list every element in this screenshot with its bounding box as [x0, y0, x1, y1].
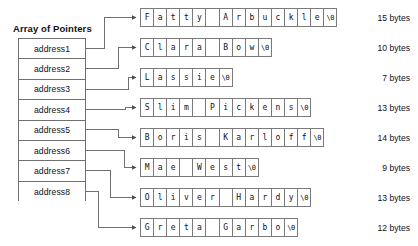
string-row: Clara Bow\0 [140, 38, 272, 57]
string-char-cell: a [232, 128, 246, 147]
string-char-cell: e [310, 8, 324, 27]
string-char-cell: \0 [297, 188, 311, 207]
string-char-cell: t [232, 158, 246, 177]
string-char-cell: m [179, 98, 193, 117]
string-char-cell: W [192, 158, 206, 177]
string-char-cell: a [166, 38, 180, 57]
byte-size-label: 15 bytes [350, 13, 410, 23]
string-char-cell: n [271, 98, 285, 117]
string-char-cell: M [140, 158, 154, 177]
string-char-cell: d [271, 188, 285, 207]
string-char-cell [179, 158, 193, 177]
byte-size-label: 12 bytes [350, 223, 410, 233]
string-char-cell [205, 38, 219, 57]
string-char-cell: \0 [219, 68, 233, 87]
pointer-array-cell: address2 [19, 59, 85, 79]
string-char-cell: B [140, 128, 154, 147]
string-char-cell: s [166, 68, 180, 87]
string-char-cell: k [245, 98, 259, 117]
string-char-cell: o [271, 218, 285, 237]
string-char-cell: i [179, 128, 193, 147]
string-char-cell: s [284, 98, 298, 117]
pointer-array-cell: address7 [19, 161, 85, 181]
byte-size-label: 10 bytes [350, 43, 410, 53]
string-char-cell [192, 98, 206, 117]
string-char-cell: a [153, 8, 167, 27]
string-char-cell: K [219, 128, 233, 147]
string-char-cell: S [140, 98, 154, 117]
string-char-cell: e [192, 188, 206, 207]
byte-size-label: 13 bytes [350, 193, 410, 203]
string-char-cell: a [245, 188, 259, 207]
string-char-cell: t [179, 8, 193, 27]
string-row: Lassie\0 [140, 68, 233, 87]
string-char-cell: o [271, 128, 285, 147]
string-row: Oliver Hardy\0 [140, 188, 311, 207]
string-char-cell: i [166, 98, 180, 117]
byte-size-label: 13 bytes [350, 103, 410, 113]
string-char-cell: r [153, 218, 167, 237]
string-char-cell: l [258, 128, 272, 147]
array-of-pointers-diagram: Array of Pointers address1address2addres… [0, 0, 418, 246]
string-char-cell: t [166, 8, 180, 27]
pointer-array-cell: address5 [19, 121, 85, 141]
string-char-cell: G [219, 218, 233, 237]
string-char-cell: r [166, 128, 180, 147]
string-char-cell: w [245, 38, 259, 57]
string-char-cell: v [179, 188, 193, 207]
string-char-cell: l [153, 98, 167, 117]
string-char-cell [205, 128, 219, 147]
string-row: Greta Garbo\0 [140, 218, 298, 237]
string-char-cell: s [192, 128, 206, 147]
string-row: Boris Karloff\0 [140, 128, 324, 147]
string-char-cell: \0 [310, 128, 324, 147]
string-row: Fatty Arbuckle\0 [140, 8, 337, 27]
string-char-cell: f [297, 128, 311, 147]
string-char-cell: s [219, 158, 233, 177]
byte-size-label: 7 bytes [350, 73, 410, 83]
string-char-cell: O [140, 188, 154, 207]
string-char-cell [205, 218, 219, 237]
string-char-cell: k [284, 8, 298, 27]
string-char-cell: \0 [284, 218, 298, 237]
string-char-cell: t [179, 218, 193, 237]
string-char-cell: i [192, 68, 206, 87]
string-char-cell [219, 188, 233, 207]
string-char-cell: r [245, 218, 259, 237]
string-char-cell: \0 [297, 98, 311, 117]
pointer-array-box: address1address2address3address4address5… [18, 38, 86, 201]
string-row: Slim Pickens\0 [140, 98, 311, 117]
string-char-cell: F [140, 8, 154, 27]
string-char-cell: f [284, 128, 298, 147]
string-char-cell: r [245, 128, 259, 147]
string-char-cell: a [232, 218, 246, 237]
string-char-cell: b [245, 8, 259, 27]
string-char-cell [205, 8, 219, 27]
string-char-cell: i [219, 98, 233, 117]
string-char-cell: G [140, 218, 154, 237]
string-char-cell: \0 [258, 38, 272, 57]
string-char-cell: H [232, 188, 246, 207]
string-char-cell: i [166, 188, 180, 207]
string-char-cell: C [140, 38, 154, 57]
string-char-cell: e [258, 98, 272, 117]
string-char-cell: e [205, 68, 219, 87]
string-char-cell: l [297, 8, 311, 27]
string-char-cell: e [166, 158, 180, 177]
byte-size-label: 9 bytes [350, 163, 410, 173]
string-char-cell: P [205, 98, 219, 117]
string-char-cell: s [179, 68, 193, 87]
string-char-cell: L [140, 68, 154, 87]
string-char-cell: r [258, 188, 272, 207]
string-char-cell: A [219, 8, 233, 27]
array-of-pointers-title: Array of Pointers [13, 23, 92, 34]
pointer-array-cell: address4 [19, 100, 85, 120]
string-char-cell: b [258, 218, 272, 237]
string-char-cell: e [205, 158, 219, 177]
string-char-cell: o [232, 38, 246, 57]
string-char-cell: a [153, 68, 167, 87]
string-char-cell: a [153, 158, 167, 177]
byte-size-label: 14 bytes [350, 133, 410, 143]
pointer-array-cell: address8 [19, 182, 85, 202]
string-char-cell: c [271, 8, 285, 27]
